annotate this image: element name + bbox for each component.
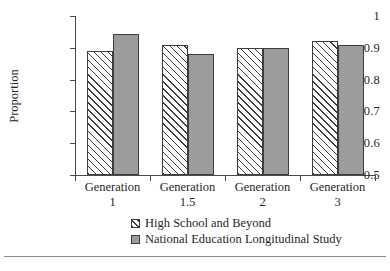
chart-legend: High School and Beyond National Educatio… [131, 216, 342, 248]
x-category-label: Generation3 [300, 180, 375, 210]
plot-area [75, 16, 375, 175]
legend-label: National Education Longitudinal Study [145, 232, 342, 247]
bar [263, 48, 289, 175]
bar-group [162, 16, 214, 175]
legend-label: High School and Beyond [145, 216, 271, 231]
footer-divider [4, 256, 386, 257]
y-axis-title: Proportion [7, 69, 22, 122]
bar-group [87, 16, 139, 175]
x-category-label: Generation1.5 [150, 180, 225, 210]
bar [113, 34, 139, 176]
legend-item-national-education-longitudinal-study: National Education Longitudinal Study [131, 232, 342, 247]
bar-group [312, 16, 364, 175]
gray-swatch-icon [131, 235, 140, 244]
bar-chart-figure: Proportion 0.50.60.70.80.91 Generation1G… [0, 0, 390, 271]
x-category-label: Generation2 [225, 180, 300, 210]
x-tick-mark [375, 175, 376, 181]
bar [338, 45, 364, 175]
x-category-label: Generation1 [75, 180, 150, 210]
hatched-swatch-icon [131, 219, 140, 228]
bar [312, 41, 338, 175]
legend-item-high-school-and-beyond: High School and Beyond [131, 216, 342, 231]
bar [162, 45, 188, 175]
bar [237, 48, 263, 175]
bar-group [237, 16, 289, 175]
bar [188, 54, 214, 175]
bar [87, 51, 113, 175]
